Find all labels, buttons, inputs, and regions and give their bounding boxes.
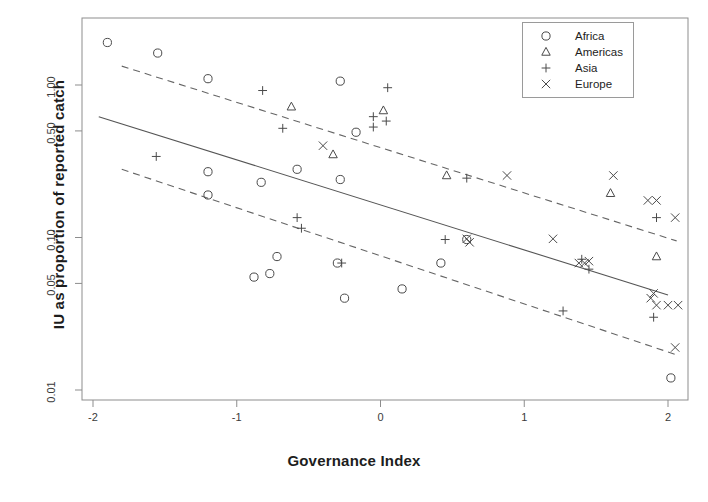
data-point-africa — [250, 273, 258, 281]
data-point-africa — [352, 128, 360, 136]
cross-marker — [529, 76, 563, 92]
data-point-africa — [204, 168, 212, 176]
y-axis-ticks — [75, 85, 82, 390]
data-point-africa — [204, 75, 212, 83]
legend-item: Asia — [529, 60, 623, 76]
data-point-africa — [266, 269, 274, 277]
y-tick-label: 0.05 — [45, 275, 57, 296]
legend-label: Africa — [563, 28, 623, 44]
legend-label: Asia — [563, 60, 623, 76]
legend-label: Europe — [563, 76, 623, 92]
data-point-africa — [273, 252, 281, 260]
x-axis-title: Governance Index — [0, 452, 708, 469]
legend-label: Americas — [563, 44, 623, 60]
legend-item: Americas — [529, 44, 623, 60]
plus-marker-glyph — [538, 61, 554, 75]
x-tick-label: -1 — [232, 411, 242, 423]
data-point-americas — [606, 189, 614, 197]
data-point-americas — [652, 252, 660, 260]
triangle-marker-glyph-shape — [542, 47, 550, 55]
data-point-africa — [340, 294, 348, 302]
circle-marker-glyph — [538, 29, 554, 43]
cross-marker-glyph — [538, 77, 554, 91]
data-point-africa — [336, 175, 344, 183]
circle-marker-glyph-shape — [542, 32, 550, 40]
y-axis-title: IU as proportion of reported catch — [50, 15, 67, 395]
triangle-marker-glyph — [538, 45, 554, 59]
data-point-africa — [437, 259, 445, 267]
y-tick-label: 0.01 — [45, 381, 57, 402]
data-point-africa — [336, 77, 344, 85]
triangle-marker — [529, 44, 563, 60]
y-tick-label: 0.50 — [45, 122, 57, 143]
data-point-americas — [379, 106, 387, 114]
data-point-africa — [293, 165, 301, 173]
data-point-americas — [287, 102, 295, 110]
legend-box: AfricaAmericasAsiaEurope — [522, 22, 634, 98]
chart-figure: Governance Index IU as proportion of rep… — [0, 0, 708, 502]
data-point-africa — [257, 178, 265, 186]
plus-marker — [529, 60, 563, 76]
x-tick-label: -2 — [88, 411, 98, 423]
x-tick-label: 0 — [377, 411, 383, 423]
data-point-africa — [667, 374, 675, 382]
circle-marker — [529, 28, 563, 44]
legend-item: Africa — [529, 28, 623, 44]
data-point-americas — [442, 171, 450, 179]
legend-table: AfricaAmericasAsiaEurope — [529, 28, 623, 92]
y-tick-label: 1.00 — [45, 76, 57, 97]
data-point-africa — [154, 49, 162, 57]
x-tick-label: 2 — [665, 411, 671, 423]
x-tick-label: 1 — [521, 411, 527, 423]
data-point-africa — [398, 285, 406, 293]
data-point-africa — [103, 38, 111, 46]
x-axis-ticks — [93, 400, 668, 407]
data-point-americas — [329, 150, 337, 158]
y-tick-label: 0.10 — [45, 229, 57, 250]
regression-line-path — [99, 117, 668, 295]
legend-item: Europe — [529, 76, 623, 92]
regression-line — [99, 117, 668, 295]
